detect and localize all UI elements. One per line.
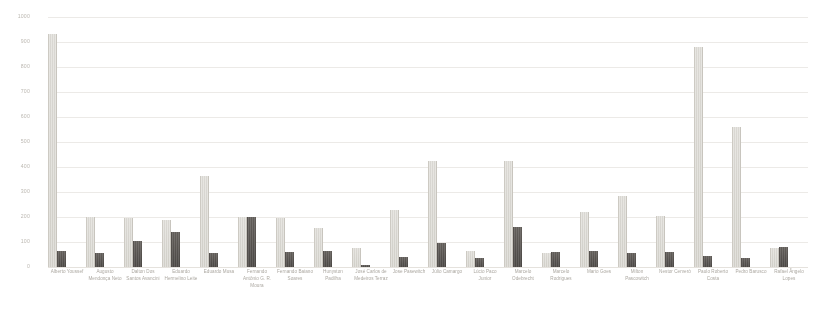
bar-group: [466, 17, 504, 267]
x-axis-label: Augusto Mendonça Neto: [86, 269, 124, 309]
bar-group: [48, 17, 86, 267]
bar: [589, 251, 598, 267]
bar: [437, 243, 446, 267]
bar: [618, 196, 627, 267]
bar-group: [124, 17, 162, 267]
bar: [323, 251, 332, 267]
bar: [314, 228, 323, 267]
x-axis-label: Júlio Camargo: [428, 269, 466, 309]
plot-area: 01002003004005006007008009001000: [48, 17, 808, 267]
x-axis-label: Marcelo Rodrigues: [542, 269, 580, 309]
bar-group: [656, 17, 694, 267]
x-axis-label: Fernando Antônio G. R. Moura: [238, 269, 276, 309]
bar: [285, 252, 294, 267]
bar-group: [732, 17, 770, 267]
y-axis-tick-label: 900: [2, 39, 30, 44]
x-axis-label: Nestor Cerveró: [656, 269, 694, 309]
bar: [475, 258, 484, 267]
y-axis-tick-label: 700: [2, 89, 30, 94]
x-axis-label: Eduardo Musa: [200, 269, 238, 309]
bar: [732, 127, 741, 267]
x-axis-label: Eduardo Hermelino Leite: [162, 269, 200, 309]
x-axis-label: Paulo Roberto Costa: [694, 269, 732, 309]
bar-group: [238, 17, 276, 267]
bar: [276, 218, 285, 267]
x-axis-label: José Carlos de Medeiros Terraz: [352, 269, 390, 309]
x-axis-label: Fernando Baiano Soares: [276, 269, 314, 309]
bar: [247, 217, 256, 267]
bar: [770, 248, 779, 267]
gridline: [48, 267, 808, 268]
bar: [428, 161, 437, 267]
bar: [627, 253, 636, 267]
y-axis-tick-label: 600: [2, 114, 30, 119]
x-axis-label: Milton Pascowitch: [618, 269, 656, 309]
bar: [48, 34, 57, 267]
bar-group: [694, 17, 732, 267]
y-axis-tick-label: 800: [2, 64, 30, 69]
bar-group: [390, 17, 428, 267]
y-axis-tick-label: 500: [2, 139, 30, 144]
bar-group: [504, 17, 542, 267]
y-axis-tick-label: 100: [2, 239, 30, 244]
x-axis-label: Pedro Barusco: [732, 269, 770, 309]
x-axis-label: Jose Pasewitch: [390, 269, 428, 309]
bar-group: [770, 17, 808, 267]
bar-group: [86, 17, 124, 267]
x-axis-label: Mario Goes: [580, 269, 618, 309]
bar: [504, 161, 513, 267]
x-axis-label: Alberto Youssef: [48, 269, 86, 309]
bar: [580, 212, 589, 267]
bar: [352, 248, 361, 267]
bar: [779, 247, 788, 267]
bar-group: [352, 17, 390, 267]
bar: [361, 265, 370, 268]
bar-group: [618, 17, 656, 267]
x-axis-label: Dalton Dos Santos Avancini: [124, 269, 162, 309]
bar: [542, 253, 551, 267]
bar-group: [314, 17, 352, 267]
y-axis-tick-label: 200: [2, 214, 30, 219]
bar: [124, 218, 133, 267]
bar-group: [162, 17, 200, 267]
x-axis-labels: Alberto YoussefAugusto Mendonça NetoDalt…: [48, 269, 808, 309]
y-axis-tick-label: 300: [2, 189, 30, 194]
x-axis-label: Rafael Ângelo Lopes: [770, 269, 808, 309]
bar: [238, 217, 247, 267]
bar-group: [428, 17, 466, 267]
y-axis-tick-label: 1000: [2, 14, 30, 19]
bar-group: [580, 17, 618, 267]
x-axis-label: Marcelo Odebrecht: [504, 269, 542, 309]
y-axis-tick-label: 400: [2, 164, 30, 169]
bar-chart: 01002003004005006007008009001000 Alberto…: [0, 0, 820, 310]
bar: [665, 252, 674, 267]
bar: [171, 232, 180, 267]
x-axis-label: Lúcio Paco Junior: [466, 269, 504, 309]
bar: [741, 258, 750, 267]
bar: [57, 251, 66, 267]
bar: [399, 257, 408, 267]
bar-group: [276, 17, 314, 267]
x-axis-label: Hunyston Padilha: [314, 269, 352, 309]
bar-group: [542, 17, 580, 267]
bar: [162, 220, 171, 268]
bar: [656, 216, 665, 267]
bar: [390, 210, 399, 268]
bar: [200, 176, 209, 267]
bar-groups: [48, 17, 808, 267]
bar: [95, 253, 104, 267]
bar: [133, 241, 142, 267]
bar: [551, 252, 560, 267]
bar-group: [200, 17, 238, 267]
bar: [703, 256, 712, 267]
bar: [694, 47, 703, 267]
bar: [466, 251, 475, 267]
bar: [209, 253, 218, 267]
bar: [513, 227, 522, 267]
y-axis-tick-label: 0: [2, 264, 30, 269]
bar: [86, 217, 95, 267]
